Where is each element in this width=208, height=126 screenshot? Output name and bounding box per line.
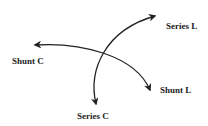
shunt-c-label: Shunt C: [12, 57, 44, 66]
series-c-label: Series C: [77, 112, 109, 121]
series-arc: [94, 16, 155, 104]
shunt-arc: [35, 45, 150, 90]
series-l-label: Series L: [166, 22, 197, 31]
shunt-l-label: Shunt L: [160, 86, 191, 95]
